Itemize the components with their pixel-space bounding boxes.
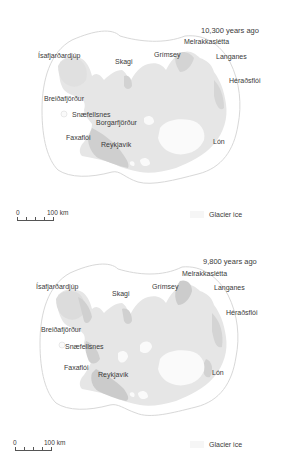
label-faxafloi: Faxaflói [64, 364, 89, 372]
scale-tick [53, 217, 54, 220]
legend-glacier-ice-label: Glacier ice [209, 211, 242, 219]
scale-tick [44, 217, 45, 220]
map-panel-9800: 9,800 years ago Ísafjarðardjúp Skagi Grí… [0, 237, 282, 474]
panel-title: 9,800 years ago [203, 257, 257, 266]
label-langanes: Langanes [216, 53, 247, 61]
scale-tick [51, 447, 52, 450]
label-grimsey: Grímsey [152, 283, 178, 291]
label-reykjavik: Reykjavík [98, 371, 128, 379]
scale-tick [24, 447, 25, 450]
scale-tick [26, 217, 27, 220]
iceland-map-10300 [0, 0, 282, 237]
scale-tick [15, 447, 16, 450]
label-isafjardardjup: Ísafjarðardjúp [36, 283, 78, 291]
legend-glacier-ice-label: Glacier ice [209, 441, 242, 449]
label-reykjavik: Reykjavík [101, 141, 131, 149]
scale-tick [17, 217, 18, 220]
scale-bar [15, 446, 52, 451]
label-snaefellsnes: Snæfellsnes [72, 111, 111, 119]
label-borgarfjordur: Borgarfjörður [96, 119, 137, 127]
label-melrakkasletta: Melrakkaslétta [184, 38, 229, 46]
legend-glacier-ice-swatch [190, 211, 204, 218]
iceland-map-9800 [0, 237, 282, 474]
label-langanes: Langanes [214, 284, 245, 292]
scale-tick [35, 217, 36, 220]
label-grimsey: Grímsey [154, 51, 180, 59]
scale-bar [17, 216, 54, 221]
label-breidafjordur: Breiðafjörður [44, 95, 84, 103]
glacier-snaefellsjokull [61, 111, 67, 117]
label-isafjardardjup: Ísafjarðardjúp [38, 52, 80, 60]
label-breidafjordur: Breiðafjörður [41, 326, 81, 334]
scale-tick [42, 447, 43, 450]
label-heradsfloi: Héraðsflói [226, 309, 258, 317]
map-panel-10300: 10,300 years ago Ísafjarðardjúp Skagi Gr… [0, 0, 282, 237]
label-faxafloi: Faxaflói [66, 134, 91, 142]
label-melrakkasletta: Melrakkaslétta [182, 270, 227, 278]
label-heradsfloi: Héraðsflói [229, 77, 261, 85]
label-snaefellsnes: Snæfellsnes [65, 343, 104, 351]
label-lon: Lón [212, 369, 224, 377]
legend-glacier-ice-swatch [190, 441, 204, 448]
scale-tick [33, 447, 34, 450]
label-skagi: Skagi [112, 290, 130, 298]
label-skagi: Skagi [115, 58, 133, 66]
label-lon: Lón [213, 138, 225, 146]
panel-title: 10,300 years ago [201, 26, 259, 35]
